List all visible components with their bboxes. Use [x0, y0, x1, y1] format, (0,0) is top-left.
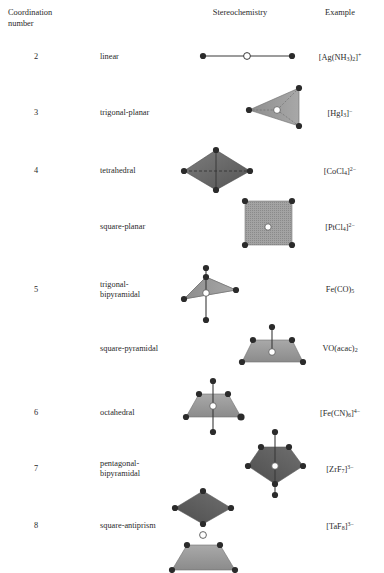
header-example: Example — [300, 8, 380, 19]
geometry-name-cell: trigonal-planar — [100, 108, 149, 118]
diagram-trigonal-bipyramidal — [181, 265, 247, 323]
geometry-name-cell: square-pyramidal — [100, 344, 158, 354]
coordination-geometry-table: Coordination number Stereochemistry Exam… — [0, 0, 384, 573]
geometry-name-cell: pentagonal- bipyramidal — [100, 459, 140, 480]
example-formula-cell: [PtCl4]2− — [300, 222, 380, 233]
example-formula-cell: [Ag(NH3)2]+ — [300, 52, 380, 63]
header-stereochemistry: Stereochemistry — [185, 8, 295, 19]
diagram-square-antiprism — [169, 488, 238, 573]
geometry-name-cell: octahedral — [100, 408, 135, 418]
coordination-number-cell: 7 — [8, 464, 64, 474]
header-coordination-number: Coordination number — [8, 8, 98, 29]
example-formula-cell: [ZrF7]3− — [300, 464, 380, 475]
diagram-octahedral — [183, 378, 245, 435]
coordination-number-cell: 6 — [8, 408, 64, 418]
coordination-number-cell: 3 — [8, 108, 64, 118]
geometry-name-cell: square-planar — [100, 222, 145, 232]
diagram-tetrahedral — [181, 147, 253, 193]
geometry-name-cell: tetrahedral — [100, 166, 135, 176]
example-formula-cell: Fe(CO)5 — [300, 285, 380, 296]
diagram-pentagonal-bipyramidal — [245, 429, 306, 498]
diagram-square-pyramidal — [239, 324, 306, 365]
diagram-linear — [200, 53, 295, 60]
coordination-number-cell: 5 — [8, 285, 64, 295]
example-formula-cell: [HgI3]− — [300, 108, 380, 119]
example-formula-cell: [CoCl4]2− — [300, 166, 380, 177]
example-formula-cell: [TaF8]3− — [300, 521, 380, 532]
diagram-square-planar — [242, 198, 295, 248]
example-formula-cell: [Fe(CN)6]4− — [300, 408, 380, 419]
example-formula-cell: VO(acac)2 — [300, 344, 380, 355]
geometry-name-cell: trigonal- bipyramidal — [100, 280, 140, 301]
geometry-name-cell: linear — [100, 52, 119, 62]
coordination-number-cell: 8 — [8, 521, 64, 531]
coordination-number-cell: 2 — [8, 52, 64, 62]
geometry-name-cell: square-antiprism — [100, 521, 156, 531]
diagram-trigonal-planar — [246, 85, 302, 129]
coordination-number-cell: 4 — [8, 166, 64, 176]
